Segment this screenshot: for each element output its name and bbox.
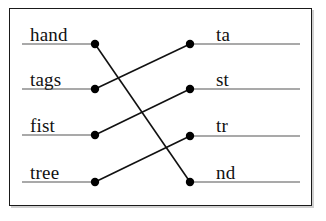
word-right-1[interactable]: st [216, 70, 229, 89]
word-right-0[interactable]: ta [216, 25, 230, 44]
diagram-canvas: hand tags fist tree ta st tr nd [0, 0, 326, 221]
word-left-3[interactable]: tree [30, 163, 59, 182]
word-right-3[interactable]: nd [216, 163, 235, 182]
word-left-0[interactable]: hand [30, 25, 68, 44]
word-left-2[interactable]: fist [30, 116, 55, 135]
word-right-2[interactable]: tr [216, 116, 228, 135]
word-left-1[interactable]: tags [30, 70, 61, 89]
